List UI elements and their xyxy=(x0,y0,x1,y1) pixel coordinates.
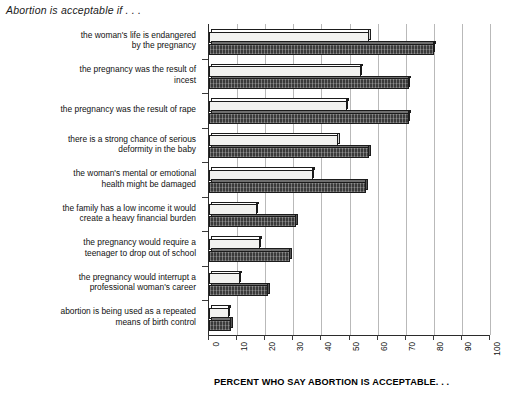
x-tick-label-20: 20 xyxy=(268,342,277,351)
x-tick-label-100: 100 xyxy=(493,342,502,356)
x-tick-mark xyxy=(489,335,490,340)
x-tick-mark xyxy=(349,335,350,340)
x-tick-label-80: 80 xyxy=(436,342,445,351)
x-tick-label-60: 60 xyxy=(380,342,389,351)
y-tick xyxy=(202,128,208,129)
y-tick xyxy=(202,93,208,94)
x-tick-mark xyxy=(405,335,406,340)
x-tick-label-50: 50 xyxy=(352,342,361,351)
y-tick xyxy=(202,231,208,232)
y-tick xyxy=(202,59,208,60)
y-tick xyxy=(202,162,208,163)
x-tick-label-70: 70 xyxy=(408,342,417,351)
x-tick-mark xyxy=(264,335,265,340)
y-tick xyxy=(202,197,208,198)
x-tick-label-40: 40 xyxy=(324,342,333,351)
x-tick-mark xyxy=(433,335,434,340)
x-tick-label-10: 10 xyxy=(240,342,249,351)
y-tick xyxy=(202,300,208,301)
x-tick-mark xyxy=(292,335,293,340)
x-tick-label-0: 0 xyxy=(212,342,221,347)
bar-chart: Abortion is acceptable if . . . the woma… xyxy=(0,0,510,396)
x-tick-mark xyxy=(377,335,378,340)
y-tick xyxy=(202,266,208,267)
x-tick-mark xyxy=(208,335,209,340)
x-tick-label-30: 30 xyxy=(296,342,305,351)
x-tick-mark xyxy=(461,335,462,340)
x-axis-title: PERCENT WHO SAY ABORTION IS ACCEPTABLE. … xyxy=(214,377,449,387)
x-tick-mark xyxy=(320,335,321,340)
x-tick-mark xyxy=(236,335,237,340)
x-tick-label-90: 90 xyxy=(464,342,473,351)
